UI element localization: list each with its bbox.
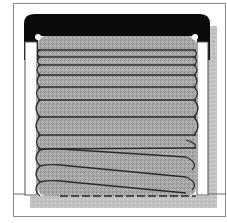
- left-pivot-dot: [35, 34, 41, 40]
- spring-diagram: [0, 0, 227, 223]
- right-post: [197, 42, 208, 195]
- bottom-shadow: [30, 196, 217, 208]
- left-post: [25, 42, 37, 195]
- right-pivot-dot: [192, 34, 198, 40]
- coil-stack: [36, 36, 198, 196]
